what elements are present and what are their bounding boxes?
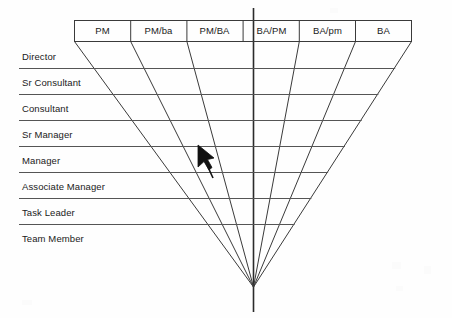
funnel-diagram-graphic: [0, 0, 452, 318]
column-header-ba-pm-lower[interactable]: BA/pm: [299, 20, 356, 41]
mouse-pointer-icon: [198, 145, 214, 178]
row-label-consultant[interactable]: Consultant: [22, 103, 68, 115]
row-label-team-member[interactable]: Team Member: [22, 233, 84, 245]
column-header-pm-ba[interactable]: PM/BA: [186, 20, 243, 41]
row-label-task-leader[interactable]: Task Leader: [22, 207, 75, 219]
column-header-pm[interactable]: PM: [74, 20, 131, 41]
row-label-manager[interactable]: Manager: [22, 155, 60, 167]
column-header-ba[interactable]: BA: [355, 20, 412, 41]
diagram-canvas: PM PM/ba PM/BA BA/PM BA/pm BA Director S…: [0, 0, 452, 318]
funnel-ray-left-outer: [75, 42, 254, 288]
funnel-ray-right-outer: [254, 42, 412, 288]
row-label-director[interactable]: Director: [22, 51, 56, 63]
column-header-ba-pm[interactable]: BA/PM: [243, 20, 300, 41]
funnel-ray: [254, 42, 356, 288]
row-label-associate-manager[interactable]: Associate Manager: [22, 181, 105, 193]
funnel-ray: [187, 42, 254, 288]
row-label-sr-manager[interactable]: Sr Manager: [22, 129, 73, 141]
funnel-ray: [131, 42, 254, 288]
column-header-pm-ba-lower[interactable]: PM/ba: [130, 20, 187, 41]
funnel-ray: [254, 42, 300, 288]
row-label-sr-consultant[interactable]: Sr Consultant: [22, 77, 81, 89]
